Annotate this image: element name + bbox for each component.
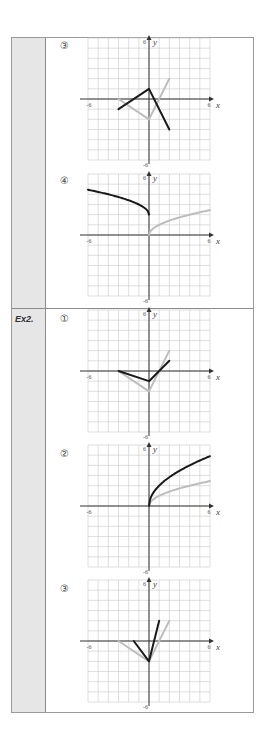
svg-text:y: y — [152, 579, 157, 589]
svg-text:6: 6 — [143, 175, 146, 181]
y-axis-arrow-icon — [147, 35, 152, 40]
svg-text:-6: -6 — [143, 298, 148, 304]
svg-text:-6: -6 — [87, 509, 92, 515]
svg-text:y: y — [152, 309, 157, 319]
problem-number: ③ — [60, 40, 69, 51]
coordinate-graph: -666-6xy — [88, 174, 210, 296]
coordinate-graph: -666-6xy — [88, 580, 210, 702]
svg-text:6: 6 — [143, 311, 146, 317]
svg-text:6: 6 — [208, 644, 211, 650]
svg-text:x: x — [215, 642, 220, 652]
problem-number: ③ — [60, 583, 69, 594]
svg-text:6: 6 — [143, 39, 146, 45]
coordinate-graph: -666-6xy — [88, 310, 210, 432]
svg-text:6: 6 — [143, 581, 146, 587]
coordinate-graph: -666-6xy — [88, 38, 210, 160]
svg-text:6: 6 — [143, 446, 146, 452]
svg-text:-6: -6 — [87, 238, 92, 244]
problem-number: ④ — [60, 175, 69, 186]
svg-text:x: x — [215, 100, 220, 110]
label-column — [12, 38, 46, 712]
svg-text:x: x — [215, 507, 220, 517]
svg-text:6: 6 — [208, 102, 211, 108]
svg-text:y: y — [152, 444, 157, 454]
svg-text:-6: -6 — [143, 162, 148, 168]
row-separator — [12, 308, 253, 309]
svg-text:y: y — [152, 173, 157, 183]
svg-text:-6: -6 — [143, 569, 148, 575]
svg-text:-6: -6 — [87, 644, 92, 650]
svg-text:-6: -6 — [87, 374, 92, 380]
svg-text:-6: -6 — [143, 434, 148, 440]
svg-text:6: 6 — [208, 374, 211, 380]
svg-text:x: x — [215, 236, 220, 246]
svg-text:-6: -6 — [87, 102, 92, 108]
svg-text:6: 6 — [208, 238, 211, 244]
problem-number: ② — [60, 448, 69, 459]
svg-text:6: 6 — [208, 509, 211, 515]
coordinate-graph: -666-6xy — [88, 445, 210, 567]
svg-text:x: x — [215, 372, 220, 382]
row-label-ex2: Ex2. — [15, 314, 34, 324]
svg-text:-6: -6 — [143, 704, 148, 710]
problem-number: ① — [60, 313, 69, 324]
svg-text:y: y — [152, 37, 157, 47]
